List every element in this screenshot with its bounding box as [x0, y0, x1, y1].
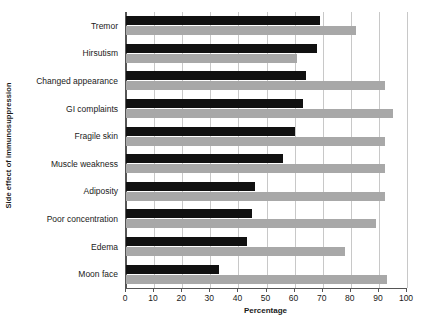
x-tick-label: 100 [399, 293, 413, 303]
bar-group [126, 95, 407, 123]
y-axis-title-text: Side effect of immunosuppression [4, 82, 13, 208]
bar-series-b [126, 81, 385, 90]
bar-series-a [126, 182, 255, 191]
x-tick [237, 288, 238, 292]
bar-group [126, 40, 407, 68]
category-label: Hirsutism [16, 40, 122, 68]
bar-group [126, 67, 407, 95]
x-tick [181, 288, 182, 292]
x-tick [378, 288, 379, 292]
bar-series-b [126, 26, 356, 35]
category-label: Moon face [16, 260, 122, 288]
category-label: Tremor [16, 12, 122, 40]
category-label: GI complaints [16, 95, 122, 123]
x-tick-label: 0 [123, 293, 128, 303]
bar-series-a [126, 154, 283, 163]
category-label: Fragile skin [16, 122, 122, 150]
category-label: Changed appearance [16, 67, 122, 95]
y-axis-title: Side effect of immunosuppression [0, 0, 16, 290]
x-tick [406, 288, 407, 292]
category-label: Edema [16, 233, 122, 261]
x-axis-tick-labels: 0102030405060708090100 [125, 293, 406, 305]
bar-chart: Side effect of immunosuppression TremorH… [0, 0, 425, 324]
x-tick-label: 40 [233, 293, 242, 303]
bar-group [126, 260, 407, 288]
bar-series-b [126, 247, 345, 256]
x-tick-label: 80 [345, 293, 354, 303]
x-axis-title: Percentage [125, 306, 406, 315]
bar-series-a [126, 237, 247, 246]
bar-series-b [126, 275, 387, 284]
bar-group [126, 150, 407, 178]
bar-group [126, 12, 407, 40]
bar-series-b [126, 54, 297, 63]
bar-series-b [126, 192, 385, 201]
x-tick [322, 288, 323, 292]
bar-series-a [126, 127, 295, 136]
bar-group [126, 233, 407, 261]
x-tick [294, 288, 295, 292]
bar-series-a [126, 99, 303, 108]
bar-series-b [126, 164, 385, 173]
category-axis-labels: TremorHirsutismChanged appearanceGI comp… [16, 12, 122, 288]
x-tick [266, 288, 267, 292]
bar-group [126, 178, 407, 206]
category-label: Poor concentration [16, 205, 122, 233]
bar-series-a [126, 44, 317, 53]
category-label: Adiposity [16, 178, 122, 206]
bar-series-a [126, 16, 320, 25]
plot-area [125, 12, 408, 288]
category-label: Muscle weakness [16, 150, 122, 178]
x-tick [350, 288, 351, 292]
x-tick-label: 60 [289, 293, 298, 303]
x-tick-label: 50 [261, 293, 270, 303]
bar-series-a [126, 71, 306, 80]
bar-group [126, 205, 407, 233]
bar-series-b [126, 109, 393, 118]
gridline [407, 12, 408, 288]
x-tick-label: 10 [148, 293, 157, 303]
bars-layer [126, 12, 407, 288]
x-tick [125, 288, 126, 292]
bar-group [126, 122, 407, 150]
x-tick [209, 288, 210, 292]
bar-series-b [126, 137, 385, 146]
bar-series-b [126, 219, 376, 228]
x-tick-label: 70 [317, 293, 326, 303]
x-tick-label: 20 [176, 293, 185, 303]
x-tick-label: 90 [373, 293, 382, 303]
bar-series-a [126, 265, 219, 274]
bar-series-a [126, 209, 252, 218]
x-tick-label: 30 [205, 293, 214, 303]
x-tick [153, 288, 154, 292]
